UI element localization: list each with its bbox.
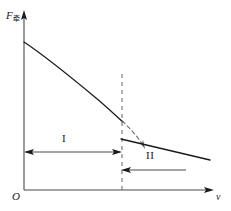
x-axis-label: v — [216, 192, 220, 202]
plot-area — [0, 0, 231, 211]
region-2-label: II — [146, 150, 154, 161]
traction-force-curve — [24, 42, 123, 122]
x-axis — [24, 187, 214, 193]
origin-label: O — [12, 191, 20, 202]
y-axis — [21, 10, 27, 190]
second-stage-line — [121, 139, 210, 160]
y-axis-label: F牵 — [6, 10, 20, 23]
y-axis-label-subscript: 牵 — [13, 15, 20, 23]
y-axis-label-main: F — [6, 9, 13, 21]
region-2-arrow — [121, 167, 186, 173]
force-velocity-chart: F牵 v O I II — [0, 0, 231, 211]
region-1-arrow — [24, 149, 122, 155]
region-1-label: I — [62, 133, 66, 144]
